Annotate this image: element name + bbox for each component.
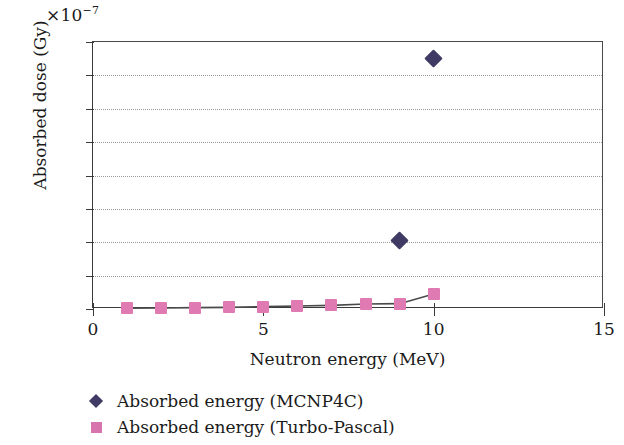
data-point-marker: [189, 302, 201, 314]
data-point-marker: [223, 301, 235, 313]
series-connector-lines: [93, 42, 602, 307]
data-point-marker: [121, 302, 133, 314]
chart-legend: Absorbed energy (MCNP4C)Absorbed energy …: [86, 388, 395, 440]
legend-diamond-icon: [86, 396, 106, 406]
legend-item-label: Absorbed energy (Turbo-Pascal): [117, 417, 395, 437]
y-axis-multiplier-exponent: −7: [82, 4, 99, 17]
x-axis-title: Neutron energy (MeV): [92, 349, 603, 369]
x-axis-tick: [604, 303, 605, 316]
legend-item: Absorbed energy (MCNP4C): [86, 388, 395, 414]
data-point-marker: [291, 300, 303, 312]
plot-area: 00.20.40.60.811.21.41.6 051015: [92, 41, 603, 308]
x-axis-tick-label: 15: [574, 319, 624, 339]
series-line: [127, 294, 434, 308]
data-point-marker: [394, 298, 406, 310]
legend-square-icon: [86, 422, 106, 433]
data-point-marker: [257, 301, 269, 313]
y-axis-multiplier: ×10−7: [46, 4, 99, 25]
x-axis-tick-label: 0: [63, 319, 123, 339]
y-axis-multiplier-base: ×10: [46, 5, 82, 25]
data-point-marker: [428, 288, 440, 300]
data-point-marker: [155, 302, 167, 314]
data-point-marker: [325, 299, 337, 311]
data-point-marker: [360, 298, 372, 310]
legend-item: Absorbed energy (Turbo-Pascal): [86, 414, 395, 440]
x-axis-tick-label: 10: [404, 319, 464, 339]
x-axis-tick-label: 5: [233, 319, 293, 339]
chart-figure: ×10−7 Absorbed dose (Gy) 00.20.40.60.811…: [0, 0, 624, 445]
y-axis-title: Absorbed dose (Gy): [30, 0, 50, 225]
legend-item-label: Absorbed energy (MCNP4C): [117, 391, 363, 411]
